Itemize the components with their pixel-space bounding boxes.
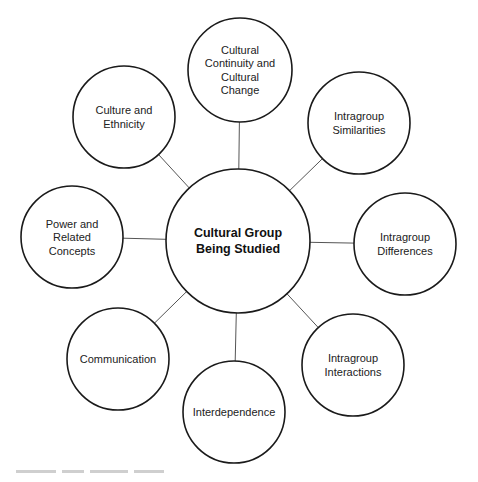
- nodes: CulturalContinuity andCulturalChangeIntr…: [21, 18, 456, 463]
- label-cultural-continuity: Cultural: [221, 44, 259, 56]
- connector-communication: [154, 292, 186, 324]
- figure-caption-cropped: [16, 470, 186, 474]
- label-culture-ethnicity: Culture and: [96, 104, 153, 116]
- connector-interdependence: [235, 313, 236, 361]
- center-label: Being Studied: [196, 242, 280, 256]
- connector-cultural-continuity: [239, 122, 240, 169]
- label-intragroup-interactions: Intragroup: [328, 352, 378, 364]
- label-cultural-continuity: Continuity and: [205, 57, 275, 69]
- node-intragroup-differences: IntragroupDifferences: [354, 193, 456, 295]
- center-node: Cultural GroupBeing Studied: [166, 169, 310, 313]
- connector-intragroup-interactions: [287, 294, 318, 328]
- label-power-related-concepts: Related: [53, 231, 91, 243]
- node-culture-ethnicity: Culture andEthnicity: [73, 66, 175, 168]
- node-intragroup-interactions: IntragroupInteractions: [302, 314, 404, 416]
- label-cultural-continuity: Cultural: [221, 71, 259, 83]
- label-power-related-concepts: Concepts: [49, 245, 96, 257]
- label-intragroup-interactions: Interactions: [325, 366, 382, 378]
- concept-diagram: CulturalContinuity andCulturalChangeIntr…: [0, 0, 478, 482]
- label-power-related-concepts: Power and: [46, 218, 99, 230]
- label-intragroup-similarities: Intragroup: [334, 110, 384, 122]
- label-communication: Communication: [80, 353, 156, 365]
- center-circle: [166, 169, 310, 313]
- node-interdependence: Interdependence: [183, 361, 285, 463]
- connector-intragroup-differences: [310, 242, 354, 243]
- center-label: Cultural Group: [194, 226, 283, 240]
- label-intragroup-differences: Differences: [377, 245, 433, 257]
- node-intragroup-similarities: IntragroupSimilarities: [308, 72, 410, 174]
- label-interdependence: Interdependence: [193, 406, 276, 418]
- node-cultural-continuity: CulturalContinuity andCulturalChange: [188, 18, 292, 122]
- connector-intragroup-similarities: [290, 159, 323, 191]
- label-cultural-continuity: Change: [221, 84, 260, 96]
- node-communication: Communication: [67, 308, 169, 410]
- label-intragroup-differences: Intragroup: [380, 231, 430, 243]
- node-power-related-concepts: Power andRelatedConcepts: [21, 186, 123, 288]
- connector-culture-ethnicity: [159, 155, 190, 189]
- connector-power-related-concepts: [123, 238, 166, 239]
- label-intragroup-similarities: Similarities: [332, 124, 386, 136]
- label-culture-ethnicity: Ethnicity: [103, 118, 145, 130]
